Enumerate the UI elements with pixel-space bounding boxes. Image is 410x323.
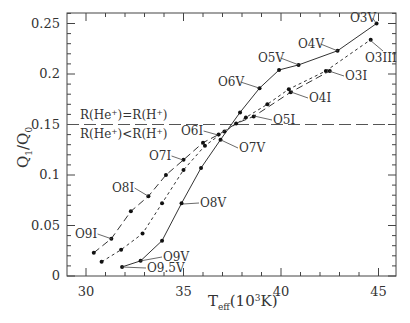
point-label: O8V (183, 196, 226, 210)
svg-text:O5V: O5V (258, 51, 284, 65)
point-label: O8I (112, 181, 148, 196)
point-label: O9.5V (122, 261, 185, 275)
y-tick-label: 0.15 (31, 117, 60, 132)
data-point (182, 168, 186, 172)
point-label: O5V (258, 51, 299, 65)
svg-text:O7I: O7I (149, 149, 171, 163)
data-point (119, 248, 123, 252)
x-tick-label: 35 (175, 284, 192, 299)
point-label: O7V (221, 140, 265, 155)
point-label: O3V (350, 11, 376, 25)
data-point (160, 201, 164, 205)
x-tick-label: 30 (78, 284, 95, 299)
data-point (219, 138, 223, 142)
svg-text:O9I: O9I (75, 227, 97, 241)
data-point (277, 68, 281, 72)
point-label: O9I (75, 227, 112, 241)
data-point (160, 239, 164, 243)
data-point (141, 232, 145, 236)
point-label: O6V (218, 75, 259, 89)
point-labels: O3VO4VO5VO6VO3IIIO3IO4IO5IO6IO7IO7VO8IO8… (75, 11, 397, 275)
svg-text:O9.5V: O9.5V (147, 261, 185, 275)
data-point (164, 173, 168, 177)
y-tick-label: 0.05 (31, 218, 60, 233)
data-point (199, 166, 203, 170)
svg-text:O5I: O5I (273, 113, 295, 127)
svg-text:O8V: O8V (200, 196, 226, 210)
data-point (180, 201, 184, 205)
data-point (100, 260, 104, 264)
data-point (129, 209, 133, 213)
svg-text:O3I: O3I (345, 69, 367, 83)
point-label: O4V (298, 37, 338, 51)
svg-text:O3III: O3III (365, 51, 397, 65)
point-label: O3I (329, 69, 367, 83)
point-label: O7I (149, 149, 183, 163)
chart: 3035404500.050.10.150.20.25 O3VO4VO5VO6V… (0, 0, 410, 323)
y-axis-label: Q1/Q0 (14, 127, 34, 168)
data-series (92, 22, 379, 269)
svg-text:O6I: O6I (181, 124, 203, 138)
svg-text:O4V: O4V (298, 37, 324, 51)
data-point (92, 251, 96, 255)
data-point (234, 121, 238, 125)
point-label: O4I (291, 91, 331, 105)
data-point (244, 115, 248, 119)
x-tick-label: 45 (370, 284, 387, 299)
svg-text:O7V: O7V (239, 141, 265, 155)
y-tick-label: 0.25 (31, 16, 60, 31)
svg-text:O8I: O8I (112, 181, 134, 195)
reference-label-above: R(He⁺)=R(H⁺) (80, 108, 168, 122)
svg-text:O6V: O6V (218, 75, 244, 89)
data-point (146, 194, 150, 198)
y-tick-label: 0.1 (39, 167, 60, 182)
data-point (201, 141, 205, 145)
data-point (238, 110, 242, 114)
point-label: O6I (181, 124, 218, 138)
svg-text:Q1/Q0: Q1/Q0 (14, 127, 34, 168)
y-tick-label: 0.2 (39, 66, 60, 81)
x-axis-label: Teff(103K) (208, 292, 278, 312)
reference-label-below: R(He⁺)<R(H⁺) (80, 127, 168, 141)
series-long-dash (92, 69, 332, 255)
svg-text:O3V: O3V (350, 11, 376, 25)
data-point (265, 102, 269, 106)
y-tick-label: 0 (52, 268, 60, 283)
svg-text:O4I: O4I (309, 91, 331, 105)
